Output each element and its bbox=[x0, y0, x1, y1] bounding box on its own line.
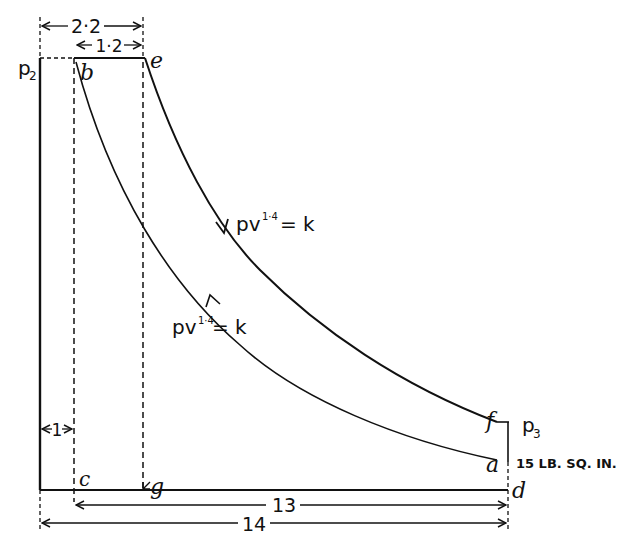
dimension-label-14: 14 bbox=[242, 513, 266, 535]
point-label-e: e bbox=[150, 48, 163, 73]
point-label-b: b bbox=[80, 60, 94, 85]
dimension-bottom-outer: 14 bbox=[42, 513, 506, 535]
dimension-label-2-2: 2·2 bbox=[71, 15, 101, 37]
dimension-label-1: 1 bbox=[52, 420, 63, 440]
dimension-label-13: 13 bbox=[272, 494, 296, 516]
pressure-label-p2: p 2 bbox=[18, 56, 37, 83]
compression-arrow-icon bbox=[206, 295, 220, 307]
point-label-g: g bbox=[150, 474, 164, 499]
svg-text:pv: pv bbox=[172, 315, 197, 339]
compression-curve-a-b bbox=[76, 62, 497, 460]
compression-curve-label: pv 1·4 = k bbox=[172, 315, 247, 339]
point-label-c: c bbox=[79, 467, 90, 491]
svg-text:= k: = k bbox=[212, 315, 247, 339]
dimension-label-1-2: 1·2 bbox=[95, 36, 122, 56]
svg-text:2: 2 bbox=[29, 69, 37, 83]
point-label-d: d bbox=[512, 478, 526, 503]
point-label-f: f bbox=[484, 408, 498, 433]
g-pointer-arrow-icon bbox=[143, 482, 150, 489]
svg-text:3: 3 bbox=[533, 427, 541, 441]
dimension-top-outer: 2·2 bbox=[40, 15, 143, 58]
svg-text:1·4: 1·4 bbox=[262, 211, 278, 222]
pressure-label-p3: p 3 bbox=[522, 413, 541, 441]
point-label-a: a bbox=[486, 452, 499, 477]
pv-diagram: 2·2 1·2 p 2 pv 1·4 = k pv 1·4 = k bbox=[0, 0, 623, 559]
expansion-curve-e-f bbox=[145, 58, 497, 422]
svg-text:= k: = k bbox=[280, 212, 315, 236]
expansion-curve-label: pv 1·4 = k bbox=[236, 211, 315, 236]
dimension-bottom-inner: 13 bbox=[76, 494, 506, 516]
pressure-label-15lb: 15 LB. SQ. IN. bbox=[516, 456, 617, 471]
dimension-left-clearance: 1 bbox=[42, 420, 72, 440]
dimension-top-inner: 1·2 bbox=[77, 36, 141, 56]
svg-text:pv: pv bbox=[236, 212, 261, 236]
